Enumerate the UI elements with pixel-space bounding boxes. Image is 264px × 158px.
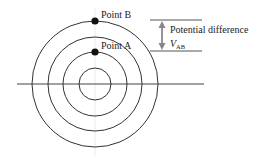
equipotential-diagram: Point B Point A Potential difference VAB — [0, 0, 264, 158]
point-a-label: Point A — [101, 40, 132, 51]
vab-subscript: AB — [176, 43, 186, 50]
vab-symbol: VAB — [170, 38, 186, 50]
potential-difference-label: Potential difference — [170, 24, 249, 35]
point-a-marker — [91, 48, 98, 55]
point-b-label: Point B — [101, 9, 132, 20]
double-arrow-icon — [159, 21, 166, 50]
point-b-marker — [91, 17, 98, 24]
